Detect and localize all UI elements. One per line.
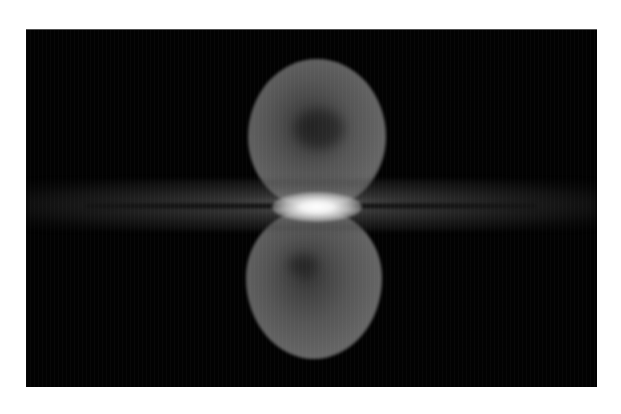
page — [0, 0, 621, 414]
galactic-center — [272, 192, 362, 222]
south-bubble-dark-patch — [288, 254, 318, 276]
north-bubble-dark-patch — [294, 109, 344, 149]
clipped-header-text — [205, 0, 615, 3]
fermi-bubbles-image — [26, 29, 597, 387]
